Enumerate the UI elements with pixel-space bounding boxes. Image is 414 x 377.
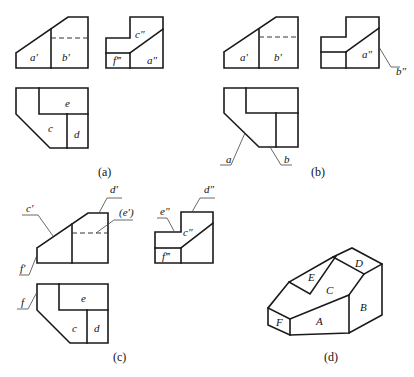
panel-a-side-view: c″f‴a″ (106, 17, 163, 68)
face-label: E (307, 271, 315, 283)
face-label: e (65, 97, 70, 109)
leader-line (379, 47, 400, 67)
panel-b-top-view: ab (220, 88, 298, 165)
visible-edge (16, 17, 88, 68)
leader-line (192, 198, 215, 212)
face-label: d″ (204, 183, 215, 195)
visible-edge (224, 17, 298, 68)
panel-c: c′d′(e′)f′e″d″c″f‴ecdf(c) (17, 183, 215, 364)
panel-a-top-view: ecd (16, 88, 88, 148)
panel-b: a′b′a″b″ab(b) (220, 17, 407, 179)
leader-line (220, 133, 245, 165)
panel-caption: (d) (324, 350, 338, 364)
face-label: d (74, 128, 80, 140)
leader-line (22, 215, 53, 236)
face-label: e (81, 292, 86, 304)
panel-c-top-view: ecdf (17, 284, 108, 343)
panel-a: a′b′c″f‴a″ecd(a) (16, 17, 163, 179)
panel-caption: (c) (113, 350, 126, 364)
face-label: c″ (183, 226, 193, 238)
face-label: f‴ (113, 54, 122, 66)
visible-edge (39, 88, 88, 114)
face-label: (e′) (119, 206, 134, 219)
face-label: b (284, 153, 290, 165)
panel-caption: (b) (311, 165, 325, 179)
panel-b-side-view: a″b″ (321, 17, 407, 77)
leader-line (17, 292, 37, 309)
face-label: b″ (396, 65, 407, 77)
panel-caption: (a) (98, 165, 111, 179)
face-label: c′ (26, 202, 34, 214)
face-label: a″ (147, 54, 158, 66)
face-label: a (226, 153, 232, 165)
face-label: f (21, 296, 26, 308)
visible-edge (321, 17, 379, 68)
drawing-canvas: a′b′c″f‴a″ecd(a)a′b′a″b″ab(b)c′d′(e′)f′e… (0, 0, 414, 377)
face-label: b′ (274, 51, 283, 63)
face-label: D (354, 257, 363, 269)
face-label: A (315, 315, 323, 327)
face-label: b′ (62, 51, 71, 63)
face-label: d′ (110, 183, 119, 195)
visible-edge (224, 88, 298, 147)
panel-c-side-view: e″d″c″f‴ (155, 183, 215, 263)
panel-a-front-view: a′b′ (16, 17, 88, 68)
three-view-drawing-figure: a′b′c″f‴a″ecd(a)a′b′a″b″ab(b)c′d′(e′)f′e… (0, 0, 414, 377)
visible-edge (268, 248, 382, 335)
visible-edge (246, 88, 298, 113)
panel-c-front-view: c′d′(e′)f′ (19, 183, 134, 275)
face-label: a′ (30, 51, 39, 63)
face-label: e″ (160, 205, 170, 217)
face-label: C (326, 284, 334, 296)
face-label: c″ (135, 28, 145, 40)
face-label: F (275, 316, 283, 328)
face-label: c (48, 122, 53, 134)
panel-d: EDCBFA(d) (268, 248, 382, 364)
face-label: a″ (362, 48, 373, 60)
face-label: f′ (20, 262, 26, 274)
panel-b-front-view: a′b′ (224, 17, 298, 68)
panel-d-isometric-view: EDCBFA (268, 248, 382, 335)
face-label: a′ (240, 51, 249, 63)
visible-edge (37, 284, 108, 343)
face-label: B (360, 301, 367, 313)
leader-line (96, 220, 133, 233)
visible-edge (290, 295, 349, 333)
face-label: c (72, 322, 77, 334)
face-label: f‴ (162, 250, 171, 262)
face-label: d (94, 322, 100, 334)
leader-line (157, 218, 174, 231)
